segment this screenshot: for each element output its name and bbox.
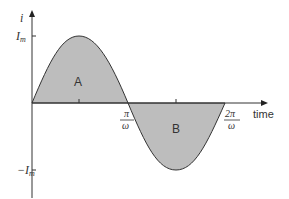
- region-b-area: [128, 103, 225, 170]
- x-axis-arrow-icon: [261, 100, 268, 106]
- half-period-den: ω: [122, 120, 129, 131]
- half-period-num: π: [124, 108, 130, 119]
- y-axis-label: i: [20, 11, 23, 25]
- full-period-num: 2π: [225, 108, 236, 119]
- sine-wave-diagram: i Im −Im A B π ω 2π ω time: [0, 0, 289, 199]
- x-axis-label: time: [253, 108, 274, 120]
- region-a-label: A: [74, 75, 82, 89]
- region-a-area: [32, 36, 128, 103]
- y-axis-arrow-icon: [29, 10, 35, 17]
- full-period-den: ω: [228, 120, 235, 131]
- max-label: Im: [15, 29, 26, 44]
- region-b-label: B: [172, 122, 180, 136]
